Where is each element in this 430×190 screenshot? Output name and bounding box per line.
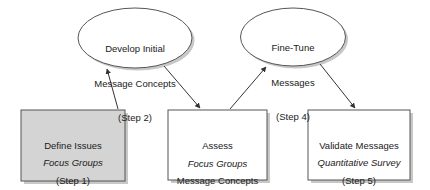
step1-line1: Define Issues — [21, 140, 125, 152]
step5-line2: (Step 5) — [308, 175, 410, 187]
step5-heading: Validate Messages (Step 5) — [308, 117, 410, 190]
step5-method: Quantitative Survey — [306, 157, 412, 169]
step1-heading: Define Issues (Step 1) — [21, 117, 125, 190]
step5-line1: Validate Messages — [308, 140, 410, 152]
connector-step1-to-step2 — [107, 69, 118, 109]
step1-method: Focus Groups — [21, 157, 125, 169]
step4-ellipse — [241, 8, 346, 66]
step3-heading: Assess Message Concepts (Step 3) — [168, 117, 267, 190]
step3-line2: Message Concepts — [168, 175, 267, 187]
connector-step3-to-step4 — [230, 67, 266, 109]
connector-step2-to-step3 — [164, 66, 200, 108]
process-flow-diagram: Develop Initial Message Concepts (Step 2… — [0, 0, 430, 190]
step3-method: Focus Groups — [168, 158, 267, 170]
step1-line2: (Step 1) — [21, 175, 125, 187]
connector-step4-to-step5 — [320, 64, 355, 108]
step2-ellipse — [78, 8, 192, 68]
step3-line1: Assess — [168, 140, 267, 152]
